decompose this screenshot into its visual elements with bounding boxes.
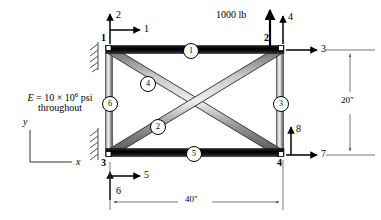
axis-label-x: x	[76, 157, 80, 167]
coordinate-axes	[30, 130, 72, 162]
dof-label-7: 7	[321, 149, 326, 159]
dof-label-3: 3	[321, 44, 326, 54]
element-label-1: 1	[183, 43, 199, 59]
node-label-3: 3	[101, 158, 106, 168]
dof-label-1: 1	[144, 24, 149, 34]
support-hatch-node-3	[90, 128, 98, 160]
node-label-1: 1	[101, 33, 106, 43]
load-label: 1000 lb	[216, 10, 246, 20]
material-property-annotation: E = 10 × 106 psi throughout	[14, 92, 106, 113]
node-label-4: 4	[277, 158, 282, 168]
dof-label-8: 8	[296, 124, 301, 134]
element-label-3: 3	[273, 96, 289, 112]
dof-label-6: 6	[116, 186, 121, 196]
truss-diagram: 1 2 3 4 1 2 3 4 5 6 7 8 1 2 3 4 5 6 1000…	[0, 0, 381, 220]
node-label-2: 2	[264, 33, 269, 43]
element-label-4: 4	[140, 76, 156, 92]
dof-label-4: 4	[288, 12, 293, 22]
material-line-2: throughout	[38, 102, 82, 113]
support-hatch-node-1	[90, 42, 98, 72]
element-label-2: 2	[150, 119, 166, 135]
axis-label-y: y	[23, 117, 27, 127]
element-label-5: 5	[186, 146, 202, 162]
dimension-label-height: 20"	[341, 96, 354, 105]
dof-label-5: 5	[144, 170, 149, 180]
dof-label-2: 2	[116, 10, 121, 20]
dimension-label-span: 40"	[185, 195, 198, 204]
